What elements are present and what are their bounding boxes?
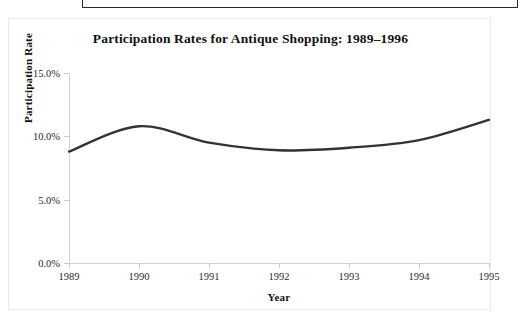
x-tick-mark <box>139 263 140 268</box>
x-tick-label: 1994 <box>409 271 430 282</box>
x-tick-mark <box>419 263 420 268</box>
x-tick-mark <box>349 263 350 268</box>
x-axis-title: Year <box>69 291 489 303</box>
x-tick-mark <box>69 263 70 268</box>
chart-title: Participation Rates for Antique Shopping… <box>9 31 492 47</box>
x-tick-label: 1991 <box>199 271 220 282</box>
y-tick-label: 15.0% <box>33 68 60 79</box>
x-tick-mark <box>279 263 280 268</box>
line-series-participation-rate <box>69 73 489 263</box>
plot-area: 15.0%10.0%5.0%0.0% 198919901991199219931… <box>69 73 489 263</box>
x-tick-mark <box>209 263 210 268</box>
y-tick-label: 5.0% <box>38 194 60 205</box>
y-tick-label: 10.0% <box>33 131 60 142</box>
page-top-frame <box>82 0 518 8</box>
x-tick-mark <box>489 263 490 268</box>
y-tick-label: 0.0% <box>38 258 60 269</box>
x-tick-label: 1992 <box>269 271 290 282</box>
x-tick-label: 1990 <box>129 271 150 282</box>
chart-container: Participation Rates for Antique Shopping… <box>8 18 491 310</box>
x-tick-label: 1995 <box>479 271 500 282</box>
x-tick-label: 1993 <box>339 271 360 282</box>
x-tick-label: 1989 <box>59 271 80 282</box>
